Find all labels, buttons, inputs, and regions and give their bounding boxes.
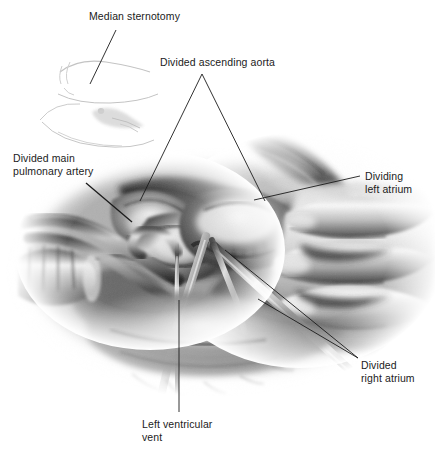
label-divided-main-pulmonary-artery: Divided main pulmonary artery [13, 152, 93, 178]
label-dividing-left-atrium: Dividing left atrium [365, 170, 412, 196]
label-divided-ascending-aorta: Divided ascending aorta [160, 56, 275, 69]
label-divided-right-atrium: Divided right atrium [361, 359, 415, 385]
label-left-ventricular-vent: Left ventricular vent [142, 418, 212, 444]
label-median-sternotomy: Median sternotomy [89, 10, 180, 23]
surgical-illustration-figure: Median sternotomy Divided ascending aort… [0, 0, 435, 454]
leader-median-sternotomy [90, 30, 116, 84]
